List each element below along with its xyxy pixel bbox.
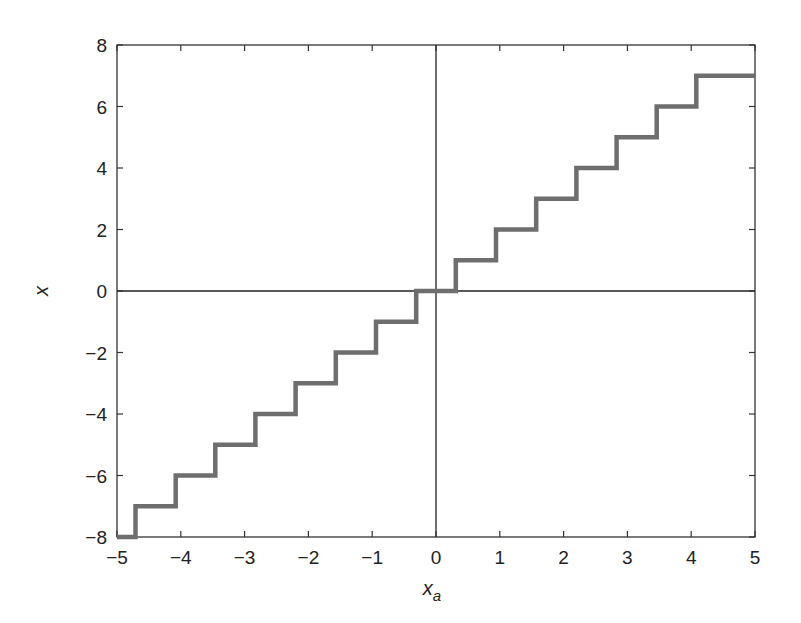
y-tick-label: 2 (96, 220, 107, 241)
x-tick-label: 0 (431, 547, 442, 568)
x-tick-label: −3 (234, 547, 256, 568)
y-tick-label: −6 (85, 466, 107, 487)
x-tick-label: 3 (622, 547, 633, 568)
x-axis-label: xa (422, 577, 441, 604)
y-tick-label: 4 (96, 158, 107, 179)
x-tick-label: −2 (298, 547, 320, 568)
y-tick-label: 6 (96, 97, 107, 118)
y-tick-label: −8 (85, 527, 107, 548)
x-tick-label: 5 (750, 547, 761, 568)
x-tick-label: −1 (361, 547, 383, 568)
x-tick-label: 2 (558, 547, 569, 568)
y-tick-label: 0 (96, 281, 107, 302)
x-tick-label: 4 (686, 547, 697, 568)
y-tick-label: −2 (85, 343, 107, 364)
y-tick-label: −4 (85, 404, 107, 425)
x-tick-label: −5 (106, 547, 128, 568)
x-tick-label: 1 (495, 547, 506, 568)
staircase-chart: −5−4−3−2−1012345−8−6−4−202468xax (0, 0, 801, 623)
y-tick-label: 8 (96, 35, 107, 56)
y-axis-label: x (30, 285, 52, 297)
x-tick-label: −4 (170, 547, 192, 568)
